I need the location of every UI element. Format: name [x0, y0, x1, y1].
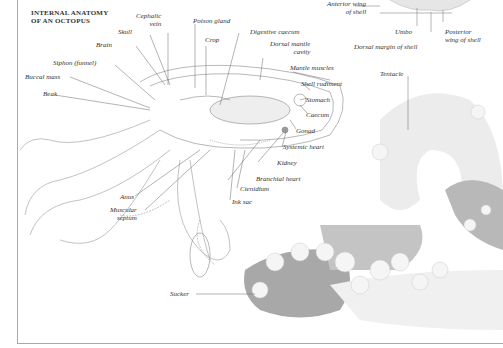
octopus-illustration: [0, 0, 503, 348]
label-systemic-heart: Systemic heart: [283, 143, 324, 151]
label-branchial-heart: Branchial heart: [256, 175, 301, 183]
label-poison-gland: Poison gland: [193, 17, 230, 25]
label-anterior-wing: Anterior wingof shell: [327, 0, 366, 16]
label-mantle-muscles: Mantle muscles: [290, 64, 334, 72]
label-sucker: Sucker: [170, 290, 189, 298]
label-dorsal-mantle-cavity: Dorsal mantlecavity: [270, 40, 310, 56]
label-umbo: Umbo: [395, 28, 412, 36]
label-anus: Anus: [120, 193, 134, 201]
label-digestive-caecum: Digestive caecum: [250, 28, 300, 36]
label-dorsal-margin: Dorsal margin of shell: [354, 43, 417, 51]
label-tentacle: Tentacle: [380, 70, 403, 78]
label-cephalic-vein: Cephalicvein: [136, 12, 161, 28]
label-beak: Beak: [43, 90, 57, 98]
label-posterior-wing: Posteriorwing of shell: [445, 28, 481, 44]
label-stomach: Stomach: [306, 96, 330, 104]
label-skull: Skull: [118, 28, 132, 36]
label-caecum: Caecum: [306, 111, 329, 119]
label-ctenidium: Ctenidium: [240, 185, 269, 193]
label-muscular-septum: Muscularseptum: [110, 206, 137, 222]
label-gonad: Gonad: [296, 127, 315, 135]
label-crop: Crop: [205, 36, 219, 44]
label-brain: Brain: [96, 41, 112, 49]
label-siphon: Siphon (funnel): [53, 59, 96, 67]
label-buccal-mass: Buccal mass: [25, 73, 60, 81]
label-ink-sac: Ink sac: [232, 198, 252, 206]
diagram-title: INTERNAL ANATOMY OF AN OCTOPUS: [31, 9, 108, 25]
label-kidney: Kidney: [277, 159, 297, 167]
label-shell-rudiment: Shell rudiment: [301, 80, 342, 88]
